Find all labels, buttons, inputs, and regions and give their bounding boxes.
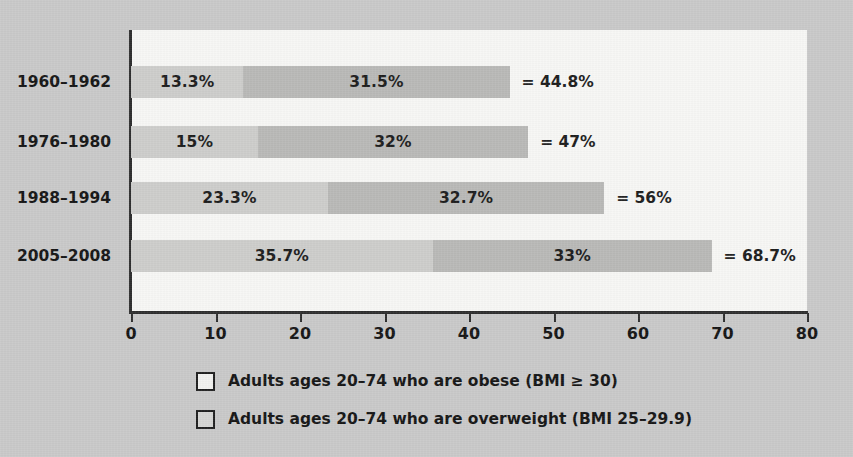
bar-segment-overweight-4: 33% — [433, 240, 712, 272]
x-tick-mark-20 — [300, 313, 302, 322]
category-label-2: 1976–1980 — [0, 126, 120, 158]
x-tick-mark-30 — [385, 313, 387, 322]
x-tick-mark-40 — [469, 313, 471, 322]
x-tick-mark-50 — [554, 313, 556, 322]
category-label-1: 1960–1962 — [0, 66, 120, 98]
bar-total-label-1: = 44.8% — [522, 66, 594, 98]
legend-item-obese: Adults ages 20–74 who are obese (BMI ≥ 3… — [196, 362, 796, 400]
category-label-3: 1988–1994 — [0, 182, 120, 214]
bar-segment-obese-1: 13.3% — [131, 66, 243, 98]
x-tick-label-70: 70 — [703, 324, 743, 343]
bar-segment-obese-4: 35.7% — [131, 240, 433, 272]
x-tick-label-60: 60 — [618, 324, 658, 343]
stacked-bar-chart: 1960–19621976–19801988–19942005–2008 13.… — [0, 0, 853, 457]
legend-item-overweight: Adults ages 20–74 who are overweight (BM… — [196, 400, 796, 438]
legend-swatch-obese — [196, 372, 215, 391]
bar-segment-overweight-3: 32.7% — [328, 182, 604, 214]
stacked-bar-4: 35.7%33% — [131, 240, 712, 272]
legend-swatch-overweight — [196, 410, 215, 429]
stacked-bar-3: 23.3%32.7% — [131, 182, 604, 214]
bar-segment-obese-3: 23.3% — [131, 182, 328, 214]
x-tick-mark-10 — [216, 313, 218, 322]
chart-legend: Adults ages 20–74 who are obese (BMI ≥ 3… — [196, 362, 796, 438]
x-tick-label-0: 0 — [111, 324, 151, 343]
x-tick-mark-70 — [723, 313, 725, 322]
x-tick-label-10: 10 — [196, 324, 236, 343]
bar-total-label-2: = 47% — [540, 126, 595, 158]
x-tick-mark-80 — [807, 313, 809, 322]
x-tick-label-50: 50 — [534, 324, 574, 343]
bar-total-label-3: = 56% — [616, 182, 671, 214]
bar-segment-overweight-1: 31.5% — [243, 66, 509, 98]
x-tick-mark-60 — [638, 313, 640, 322]
x-tick-label-30: 30 — [365, 324, 405, 343]
bar-total-label-4: = 68.7% — [724, 240, 796, 272]
legend-label-obese: Adults ages 20–74 who are obese (BMI ≥ 3… — [228, 372, 618, 390]
x-tick-label-20: 20 — [280, 324, 320, 343]
bar-segment-obese-2: 15% — [131, 126, 258, 158]
stacked-bar-1: 13.3%31.5% — [131, 66, 510, 98]
stacked-bar-2: 15%32% — [131, 126, 528, 158]
x-tick-mark-0 — [131, 313, 133, 322]
x-tick-label-40: 40 — [449, 324, 489, 343]
bar-segment-overweight-2: 32% — [258, 126, 528, 158]
legend-label-overweight: Adults ages 20–74 who are overweight (BM… — [228, 410, 692, 428]
category-label-4: 2005–2008 — [0, 240, 120, 272]
x-tick-label-80: 80 — [787, 324, 827, 343]
